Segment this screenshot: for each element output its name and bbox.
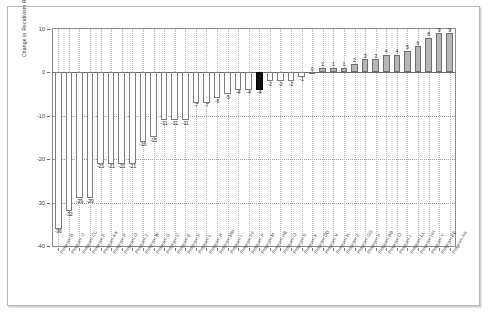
x-axis-tick-labels: Program BProgram UProgram CCProgram FPro…: [52, 248, 456, 310]
bar[interactable]: [87, 72, 94, 198]
figure-caption-clip: FIGURE 11.3: [0, 308, 489, 321]
bar[interactable]: [129, 72, 136, 163]
x-tick-mark: [206, 248, 207, 251]
bar[interactable]: [351, 64, 358, 73]
bar[interactable]: [415, 46, 422, 72]
bar[interactable]: [108, 72, 115, 163]
bar-value-label: -15: [143, 137, 163, 143]
x-tick-mark: [132, 248, 133, 251]
bar[interactable]: [193, 72, 200, 102]
bar[interactable]: [118, 72, 125, 163]
y-tick-mark: [47, 246, 50, 247]
y-tick-label: -10: [37, 113, 45, 119]
y-tick-label: -20: [37, 156, 45, 162]
bar[interactable]: [140, 72, 147, 141]
bar-value-label: -4: [249, 89, 269, 95]
y-tick-label: 0: [42, 69, 45, 75]
bar[interactable]: [76, 72, 83, 198]
bar[interactable]: [362, 59, 369, 72]
bar[interactable]: [97, 72, 104, 163]
bar-value-label: -21: [122, 163, 142, 169]
bar[interactable]: [66, 72, 73, 211]
bar-value-label: -11: [175, 120, 195, 126]
bar-value-label: -36: [48, 228, 68, 234]
y-tick-label: 10: [39, 26, 45, 32]
bar[interactable]: [309, 72, 316, 74]
bar[interactable]: [330, 68, 337, 72]
y-tick-label: -30: [37, 200, 45, 206]
bar[interactable]: [171, 72, 178, 120]
y-tick-mark: [47, 116, 50, 117]
bar[interactable]: [372, 59, 379, 72]
bars-layer: -36-32-29-29-21-21-21-21-16-15-11-11-11-…: [53, 29, 455, 246]
y-tick-mark: [47, 159, 50, 160]
bar[interactable]: [235, 72, 242, 89]
bar[interactable]: [161, 72, 168, 120]
bar[interactable]: [394, 55, 401, 72]
x-tick-mark: [407, 248, 408, 251]
y-tick-mark: [47, 29, 50, 30]
bar[interactable]: [245, 72, 252, 89]
bar[interactable]: [341, 68, 348, 72]
bar-value-label: -32: [59, 211, 79, 217]
bar[interactable]: [182, 72, 189, 120]
bar[interactable]: [436, 33, 443, 72]
y-tick-mark: [47, 72, 50, 73]
plot-area: -36-32-29-29-21-21-21-21-16-15-11-11-11-…: [52, 28, 456, 247]
bar[interactable]: [150, 72, 157, 137]
y-tick-label: -40: [37, 243, 45, 249]
bar-value-label: -29: [80, 198, 100, 204]
x-tick-mark: [333, 248, 334, 251]
figure-page: Change in Recidivism Rates 100-10-20-30-…: [0, 0, 489, 321]
bar[interactable]: [404, 51, 411, 73]
bar[interactable]: [425, 38, 432, 73]
bar-value-label: 9: [440, 27, 460, 33]
figure-frame: Change in Recidivism Rates 100-10-20-30-…: [7, 6, 480, 306]
bar[interactable]: [319, 68, 326, 72]
bar[interactable]: [446, 33, 453, 72]
y-axis-tick-labels: 100-10-20-30-40: [8, 28, 50, 247]
bar[interactable]: [383, 55, 390, 72]
y-tick-mark: [47, 203, 50, 204]
bar[interactable]: [55, 72, 62, 228]
bar-value-label: -1: [292, 76, 312, 82]
